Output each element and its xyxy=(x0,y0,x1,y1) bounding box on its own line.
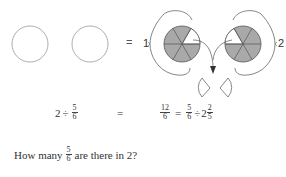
denominator: 6 xyxy=(187,113,191,121)
lhs-divide-sign: ÷ xyxy=(63,107,69,119)
pie-right xyxy=(225,26,261,62)
label-two: 2 xyxy=(278,37,284,49)
empty-circle-1 xyxy=(12,26,48,62)
pie-left xyxy=(164,26,200,62)
question-prefix: How many xyxy=(14,149,63,161)
rhs-fraction-12-6: 12 6 xyxy=(160,104,170,121)
equation-rhs: 12 6 = 5 6 ÷ 2 2 5 xyxy=(159,104,214,121)
question-fraction: 5 6 xyxy=(66,146,72,163)
wedge-left xyxy=(198,78,210,97)
denominator: 6 xyxy=(67,155,71,163)
equals-sign-diagram: = xyxy=(126,36,132,48)
fraction-diagram xyxy=(0,0,286,100)
denominator: 6 xyxy=(163,113,167,121)
question-suffix: are there in 2? xyxy=(75,149,138,161)
wedge-right xyxy=(220,78,232,97)
rhs-divide-sign: ÷ xyxy=(194,107,200,119)
question-text: How many 5 6 are there in 2? xyxy=(14,146,137,163)
lhs-fraction: 5 6 xyxy=(72,104,78,121)
empty-circle-2 xyxy=(72,26,108,62)
arrow-head-icon xyxy=(210,66,216,74)
rhs-equals: = xyxy=(175,107,181,119)
denominator: 5 xyxy=(208,113,212,121)
equation-equals: = xyxy=(117,107,123,119)
equation-lhs: 2 ÷ 5 6 xyxy=(55,104,79,121)
mixed-fraction: 2 5 xyxy=(207,104,213,121)
label-one: 1 xyxy=(143,37,149,49)
lhs-whole: 2 xyxy=(55,107,61,119)
rhs-fraction-5-6: 5 6 xyxy=(186,104,192,121)
denominator: 6 xyxy=(73,113,77,121)
